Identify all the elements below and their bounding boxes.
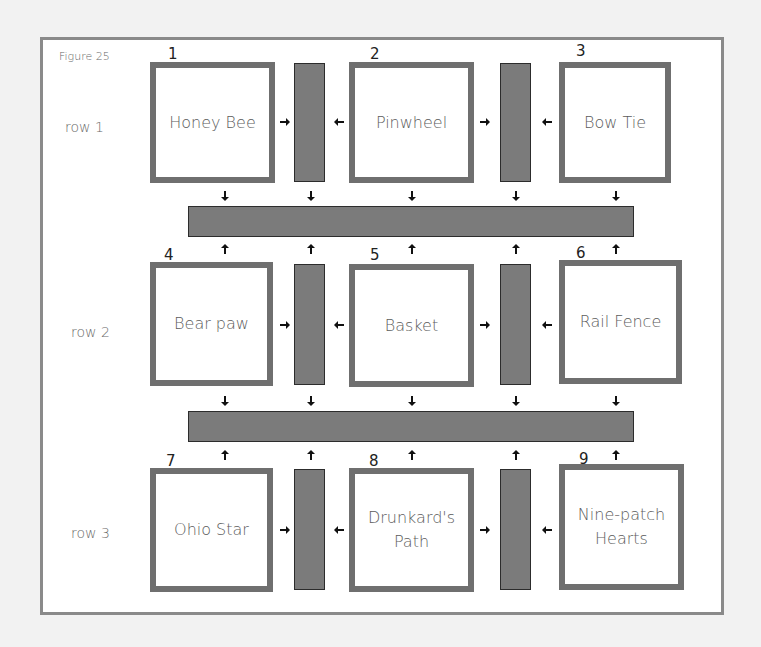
vertical-sashing — [500, 63, 531, 182]
arrow-up-icon — [610, 243, 622, 255]
quilt-block-honey-bee: Honey Bee — [150, 62, 275, 183]
block-number: 1 — [168, 45, 178, 63]
block-label: Drunkard's Path — [368, 506, 455, 554]
arrow-down-icon — [406, 395, 418, 407]
quilt-block-pinwheel: Pinwheel — [349, 62, 474, 183]
arrow-left-icon — [333, 524, 345, 536]
arrow-down-icon — [510, 395, 522, 407]
vertical-sashing — [294, 63, 325, 182]
arrow-right-icon — [279, 116, 291, 128]
block-number: 3 — [576, 42, 586, 60]
arrow-right-icon — [479, 319, 491, 331]
arrow-up-icon — [406, 449, 418, 461]
block-label: Nine-patch Hearts — [578, 503, 665, 551]
horizontal-sashing — [188, 411, 634, 442]
arrow-down-icon — [610, 395, 622, 407]
vertical-sashing — [294, 469, 325, 590]
vertical-sashing — [500, 264, 531, 385]
block-label: Rail Fence — [580, 310, 662, 334]
arrow-up-icon — [305, 449, 317, 461]
block-label: Basket — [385, 314, 438, 338]
block-number: 5 — [370, 246, 380, 264]
row-label-3: row 3 — [71, 525, 110, 541]
arrow-left-icon — [333, 319, 345, 331]
arrow-down-icon — [219, 190, 231, 202]
arrow-down-icon — [305, 395, 317, 407]
figure-title: Figure 25 — [59, 50, 110, 63]
quilt-block-basket: Basket — [349, 264, 474, 387]
quilt-block-nine-patch-hearts: Nine-patch Hearts — [559, 464, 684, 590]
block-number: 2 — [370, 45, 380, 63]
quilt-block-ohio-star: Ohio Star — [150, 468, 273, 592]
quilt-block-bear-paw: Bear paw — [150, 262, 273, 386]
row-label-1: row 1 — [65, 119, 104, 135]
block-label: Bow Tie — [584, 111, 646, 135]
arrow-left-icon — [541, 524, 553, 536]
block-label: Honey Bee — [169, 111, 256, 135]
vertical-sashing — [294, 264, 325, 385]
arrow-right-icon — [279, 319, 291, 331]
arrow-down-icon — [510, 190, 522, 202]
quilt-block-drunkards-path: Drunkard's Path — [349, 468, 474, 592]
quilt-block-bow-tie: Bow Tie — [559, 62, 671, 183]
vertical-sashing — [500, 469, 531, 590]
arrow-down-icon — [305, 190, 317, 202]
block-label: Bear paw — [174, 312, 249, 336]
arrow-up-icon — [219, 243, 231, 255]
figure-frame: Figure 25 row 1 row 2 row 3 1 Honey Bee … — [40, 37, 724, 615]
block-label: Ohio Star — [174, 518, 249, 542]
arrow-down-icon — [219, 395, 231, 407]
arrow-up-icon — [510, 243, 522, 255]
arrow-left-icon — [541, 319, 553, 331]
arrow-up-icon — [219, 449, 231, 461]
arrow-down-icon — [406, 190, 418, 202]
row-label-2: row 2 — [71, 324, 110, 340]
arrow-up-icon — [610, 449, 622, 461]
arrow-down-icon — [610, 190, 622, 202]
arrow-right-icon — [479, 116, 491, 128]
quilt-block-rail-fence: Rail Fence — [559, 260, 682, 384]
block-label: Pinwheel — [376, 111, 447, 135]
arrow-up-icon — [406, 243, 418, 255]
arrow-left-icon — [541, 116, 553, 128]
horizontal-sashing — [188, 206, 634, 237]
arrow-right-icon — [479, 524, 491, 536]
arrow-up-icon — [510, 449, 522, 461]
arrow-up-icon — [305, 243, 317, 255]
arrow-left-icon — [333, 116, 345, 128]
arrow-right-icon — [279, 524, 291, 536]
